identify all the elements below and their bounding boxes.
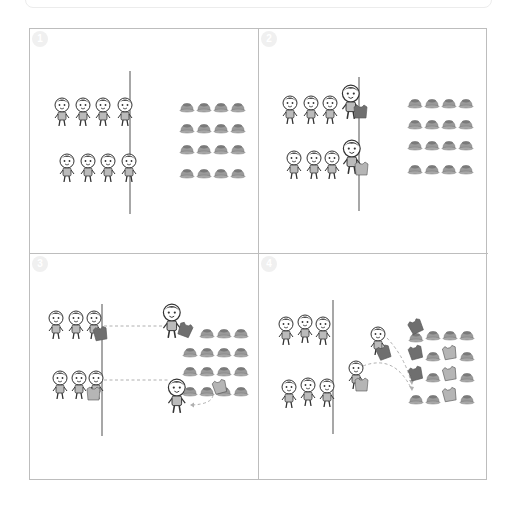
- scene-step-2: [259, 29, 488, 254]
- bib-icon: [355, 162, 368, 175]
- panel-step-1: 1: [30, 29, 259, 254]
- team-top: [55, 98, 132, 126]
- runner-top: [163, 304, 180, 338]
- team-bottom: [53, 371, 103, 400]
- scene-step-3: [30, 254, 259, 479]
- cone-grid: [408, 100, 473, 175]
- team-top: [279, 315, 330, 345]
- panel-step-3: 3: [30, 254, 259, 479]
- scene-step-1: [30, 29, 259, 254]
- cone-grid: [180, 104, 245, 179]
- bib-icon: [354, 105, 367, 118]
- team-bottom: [60, 154, 136, 182]
- runner-bottom: [168, 379, 185, 413]
- header-box: [25, 0, 492, 8]
- step-diagram-grid: 1: [29, 28, 487, 480]
- team-bottom: [282, 378, 334, 408]
- movement-paths: [363, 334, 414, 391]
- panel-step-2: 2: [259, 29, 488, 254]
- team-top: [49, 311, 108, 341]
- panel-step-4: 4: [259, 254, 488, 479]
- team-top: [283, 85, 367, 124]
- scene-step-4: [259, 254, 488, 479]
- team-bottom: [287, 140, 368, 179]
